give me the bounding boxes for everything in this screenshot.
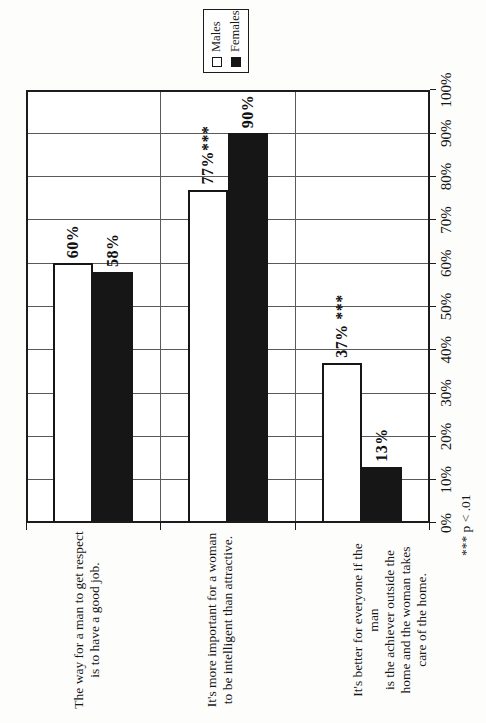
category-label-line: to be intelligent than attractive. <box>220 531 236 709</box>
scanned-chart-page: 0%10%20%30%40%50%60%70%80%90%100% 60%58%… <box>0 0 486 723</box>
legend-entry-males: Males <box>210 14 223 67</box>
legend-males-swatch <box>212 57 222 67</box>
significance-footnote: *** p < .01 <box>458 494 474 556</box>
value-axis-tick <box>430 393 436 394</box>
legend-entry-females: Females <box>229 14 242 67</box>
category-label-line: It's better for everyone if the man <box>350 531 382 709</box>
legend-females-label: Females <box>229 10 242 52</box>
value-axis-tick <box>430 133 436 134</box>
category-axis-tick <box>160 523 161 530</box>
bar-males-cat1 <box>53 263 93 523</box>
legend-males-label: Males <box>210 21 223 52</box>
value-axis-tick <box>430 479 436 480</box>
category-gridline <box>160 90 161 523</box>
bar-females-cat3 <box>362 467 402 523</box>
category-axis-tick <box>295 523 296 530</box>
category-label-2: It's more important for a womanto be int… <box>204 531 236 709</box>
category-label-line: home and the woman takes <box>398 531 414 709</box>
value-axis-tick <box>430 349 436 350</box>
bar-value-label-males-cat2: 77%*** <box>199 126 217 185</box>
value-axis-label: 100% <box>438 58 455 122</box>
value-axis-tick <box>430 263 436 264</box>
category-gridline <box>295 90 296 523</box>
value-axis-tick <box>430 523 436 524</box>
bar-females-cat1 <box>93 272 133 523</box>
legend-females-swatch <box>231 57 241 67</box>
value-axis-tick <box>430 219 436 220</box>
category-label-line: is to have a good job. <box>87 531 103 709</box>
bar-males-cat2 <box>188 190 228 523</box>
bar-value-label-females-cat1: 58% <box>104 233 122 267</box>
bar-value-label-males-cat1: 60% <box>64 225 82 259</box>
category-label-3: It's better for everyone if the manis th… <box>350 531 430 709</box>
category-label-1: The way for a man to get respectis to ha… <box>71 531 103 709</box>
value-axis-tick <box>430 90 436 91</box>
bar-females-cat2 <box>228 133 268 523</box>
category-label-line: is the achiever outside the <box>382 531 398 709</box>
bar-value-label-females-cat2: 90% <box>239 95 257 129</box>
bar-males-cat3 <box>322 363 362 523</box>
legend: Males Females <box>203 9 249 73</box>
bar-value-label-females-cat3: 13% <box>373 428 391 462</box>
category-label-line: care of the home. <box>414 531 430 709</box>
rotated-chart-canvas: 0%10%20%30%40%50%60%70%80%90%100% 60%58%… <box>0 0 486 723</box>
value-axis-tick <box>430 436 436 437</box>
category-axis-tick <box>26 523 27 530</box>
category-axis-tick <box>429 523 430 530</box>
category-label-line: The way for a man to get respect <box>71 531 87 709</box>
bar-value-label-males-cat3: 37% *** <box>333 294 351 358</box>
category-label-line: It's more important for a woman <box>204 531 220 709</box>
value-axis-tick <box>430 306 436 307</box>
plot-area <box>26 90 430 523</box>
value-axis-tick <box>430 176 436 177</box>
